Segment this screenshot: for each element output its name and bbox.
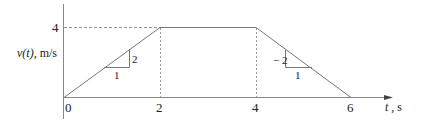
- x-tick-4: 4: [252, 100, 259, 115]
- y-axis-title-units: , m/s: [34, 46, 58, 60]
- x-axis-title-units: , s: [388, 100, 402, 114]
- x-tick-2: 2: [156, 100, 163, 115]
- slope-triangle-rise: [104, 49, 130, 68]
- slope-rise-value: 2: [132, 53, 138, 65]
- x-axis-title: t , s: [385, 100, 402, 114]
- velocity-line: [64, 28, 351, 98]
- slope-fall-value: − 2: [273, 54, 287, 66]
- velocity-time-chart: 2 1 − 2 1 4 0 2 4 6 v(t), m/s t , s: [0, 0, 431, 122]
- x-tick-6: 6: [347, 100, 354, 115]
- x-tick-0: 0: [65, 100, 72, 115]
- y-tick-4: 4: [52, 20, 59, 35]
- y-axis-title: v(t), m/s: [17, 46, 57, 60]
- slope-fall-run: 1: [295, 69, 301, 81]
- slope-rise-run: 1: [114, 69, 120, 81]
- y-axis-title-var: v(t): [17, 46, 34, 60]
